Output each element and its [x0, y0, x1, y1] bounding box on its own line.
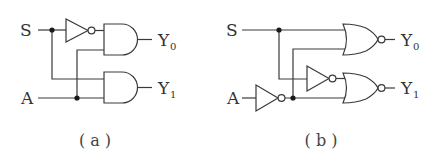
output-y0-subscript: 0: [413, 41, 419, 52]
output-y1-subscript: 1: [170, 89, 176, 100]
diagram-a: S A Y 0 Y 1 ( a ): [20, 19, 176, 150]
output-y0-label: Y: [157, 30, 170, 50]
inverter-bubble: [329, 75, 336, 82]
caption-a: ( a ): [79, 131, 111, 150]
output-y1-label: Y: [400, 78, 413, 98]
input-a-label: A: [20, 88, 34, 108]
inverter-bubble: [278, 95, 285, 102]
junction-dot: [290, 95, 295, 100]
wire-s-branch: [52, 30, 104, 79]
output-y0-subscript: 0: [170, 41, 176, 52]
not-gate-2: [307, 66, 329, 91]
nor-bubble: [378, 36, 385, 43]
nor-gate-1: [343, 24, 378, 55]
junction-dot: [74, 95, 79, 100]
not-gate-1: [256, 85, 278, 111]
input-s-label: S: [226, 20, 238, 40]
not-gate: [66, 19, 88, 42]
logic-diagrams: S A Y 0 Y 1 ( a ) S A: [0, 0, 441, 161]
input-s-label: S: [20, 20, 32, 40]
wire-a-branch: [77, 50, 104, 98]
and-gate-2: [104, 72, 138, 103]
caption-b: ( b ): [305, 131, 338, 150]
input-a-label: A: [226, 88, 240, 108]
junction-dot: [276, 27, 281, 32]
diagram-b: S A Y 0 Y 1 ( b ): [226, 20, 419, 150]
nor-gate-2: [343, 73, 378, 103]
junction-dot: [49, 27, 54, 32]
and-gate-1: [104, 24, 138, 55]
output-y1-subscript: 1: [413, 89, 419, 100]
output-y1-label: Y: [157, 78, 170, 98]
inverter-bubble: [88, 27, 95, 34]
nor-bubble: [378, 85, 385, 92]
output-y0-label: Y: [400, 30, 413, 50]
